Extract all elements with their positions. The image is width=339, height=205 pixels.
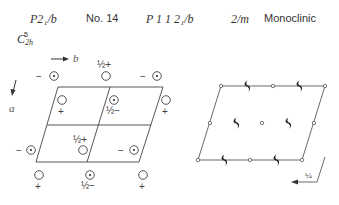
svg-text:½−: ½− — [106, 105, 120, 116]
svg-text:+: + — [35, 181, 41, 192]
right-symmetry-diagram: ¼ — [196, 81, 326, 185]
cell-mid-vertical — [87, 87, 110, 162]
axis-a: a — [9, 80, 16, 114]
svg-text:+: + — [162, 106, 168, 117]
position-lower-left: − — [16, 145, 35, 156]
svg-text:−: − — [140, 71, 146, 82]
position-top-right: − — [140, 71, 161, 82]
svg-text:−: − — [36, 71, 42, 82]
position-top-mid: ½+ — [97, 59, 111, 80]
svg-text:−: − — [118, 145, 124, 156]
position-bottom-left: + — [35, 171, 44, 192]
position-bottom-mid: ½− — [81, 171, 95, 191]
left-cell-diagram — [36, 87, 163, 162]
position-upper-left: + — [58, 96, 67, 117]
position-bottom-right: + — [139, 171, 148, 192]
position-upper-right: + — [162, 96, 171, 117]
svg-text:−: − — [16, 145, 22, 156]
svg-text:+: + — [58, 106, 64, 117]
inversion-center-icon — [196, 84, 326, 161]
svg-text:½+: ½+ — [97, 59, 111, 70]
unit-cell-outline — [36, 87, 163, 162]
diagrams: b a − ½+ − + ½− + − ½+ − — [0, 0, 339, 205]
arrow-left-icon — [291, 180, 298, 185]
svg-text:a: a — [9, 102, 15, 114]
position-top-left: − — [36, 71, 58, 82]
svg-text:¼: ¼ — [305, 171, 312, 180]
svg-text:+: + — [139, 181, 145, 192]
position-upper-mid: ½− — [106, 96, 120, 116]
position-lower-mid: ½+ — [73, 134, 87, 154]
svg-text:½+: ½+ — [73, 134, 87, 145]
axis-b: b — [51, 52, 79, 64]
svg-text:½−: ½− — [81, 180, 95, 191]
svg-text:b: b — [73, 52, 79, 64]
glide-plane-height-marker: ¼ — [291, 157, 325, 185]
position-lower-right: − — [118, 145, 138, 156]
